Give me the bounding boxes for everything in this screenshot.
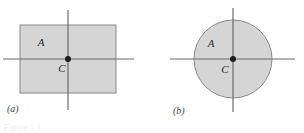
region-label-a: A bbox=[37, 36, 45, 48]
figure-bottom-caption: Figure 1.1 bbox=[4, 122, 41, 132]
center-label-b: C bbox=[221, 63, 229, 75]
center-label-a: C bbox=[58, 62, 66, 74]
region-label-b: A bbox=[207, 37, 215, 49]
panel-a: A C (a) bbox=[0, 0, 152, 133]
panel-a-diagram: A C bbox=[0, 0, 152, 133]
panel-b: A C (b) bbox=[152, 0, 304, 133]
panel-caption-b: (b) bbox=[173, 105, 185, 116]
center-point-a bbox=[65, 56, 71, 62]
panel-caption-a: (a) bbox=[7, 103, 19, 114]
center-point-b bbox=[230, 56, 236, 62]
figure-container: A C (a) A C (b) Figure 1.1 bbox=[0, 0, 304, 133]
